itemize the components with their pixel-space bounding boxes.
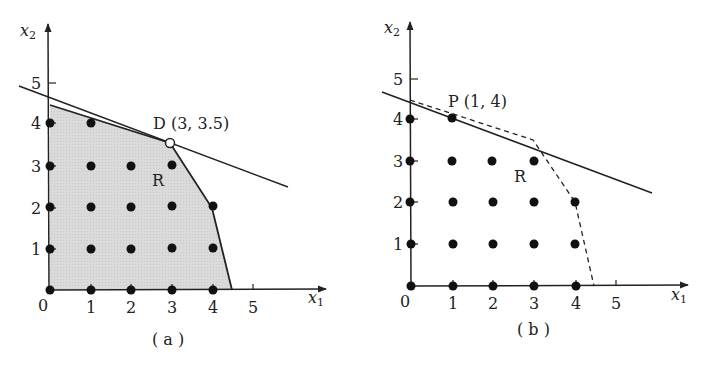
y-tick-label: 3: [31, 157, 41, 176]
x-tick-label: 0: [400, 292, 410, 311]
y-tick-label: 2: [31, 199, 41, 218]
optimal-point-p: [448, 114, 457, 123]
region-label-a: R: [152, 171, 165, 190]
x-tick-label: 3: [529, 294, 539, 313]
x-tick-label: 5: [248, 298, 258, 317]
y-tick-label: 1: [393, 235, 403, 254]
y-axis-label-b: x2: [384, 18, 400, 39]
x-tick-label: 2: [126, 298, 136, 317]
caption-a: ( a ): [152, 330, 184, 349]
region-boundary-b: [410, 100, 594, 286]
panel-a: 0 1 2 3 4 5 1 2 3 4 5 x1 x2 D (3, 3.5) R…: [19, 21, 326, 349]
y-tick-label: 1: [31, 240, 41, 259]
integer-points-b: [406, 115, 581, 291]
y-axis-label-a: x2: [20, 21, 36, 42]
x-tick-label: 3: [167, 298, 177, 317]
y-tick-label: 4: [31, 114, 41, 133]
x-tick-label: 4: [571, 294, 581, 313]
point-label-p: P (1, 4): [448, 92, 507, 111]
figure: 0 1 2 3 4 5 1 2 3 4 5 x1 x2 D (3, 3.5) R…: [0, 0, 705, 378]
y-tick-label: 3: [393, 152, 403, 171]
x-tick-label: 4: [208, 298, 218, 317]
y-tick-label: 4: [393, 110, 403, 129]
x-axis-label-a: x1: [308, 288, 324, 309]
point-label-d: D (3, 3.5): [153, 114, 229, 133]
region-label-b: R: [514, 167, 527, 186]
panel-b: 0 1 2 3 4 5 1 2 3 4 5 x1 x2 P (1, 4) R (…: [382, 18, 688, 339]
x-axis-label-b: x1: [671, 285, 687, 306]
x-tick-label: 1: [448, 294, 458, 313]
x-tick-label: 0: [38, 296, 48, 315]
y-tick-label: 5: [31, 74, 41, 93]
x-tick-label: 5: [611, 294, 621, 313]
y-tick-label: 5: [393, 70, 403, 89]
caption-b: ( b ): [517, 320, 550, 339]
optimal-point-d: [166, 139, 175, 148]
x-tick-label: 1: [86, 298, 96, 317]
x-tick-label: 2: [488, 294, 498, 313]
y-tick-label: 2: [393, 193, 403, 212]
